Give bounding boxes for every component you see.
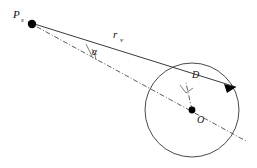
angle-label: α bbox=[92, 47, 98, 57]
axis-dashdot-line bbox=[28, 22, 246, 141]
source-point-label: P bbox=[12, 8, 20, 20]
center-point-label: O bbox=[197, 114, 204, 125]
distance-label: r bbox=[113, 28, 118, 40]
line-of-sight-ray bbox=[28, 22, 236, 87]
impact-parameter-segment bbox=[186, 83, 192, 110]
source-dot-icon bbox=[28, 20, 36, 28]
center-dot-icon bbox=[189, 107, 196, 114]
geometry-diagram: P s r v α D O bbox=[0, 0, 257, 168]
impact-parameter-label: D bbox=[191, 69, 200, 80]
diagram-canvas: P s r v α D O bbox=[0, 0, 257, 168]
source-point-subscript-label: s bbox=[21, 16, 24, 24]
distance-subscript-label: v bbox=[120, 36, 124, 44]
